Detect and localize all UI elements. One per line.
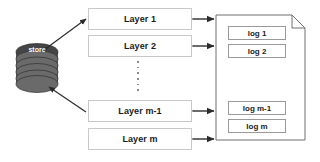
layers-ellipsis-icon (132, 61, 144, 91)
store-to-layer-m-1-arrow (49, 87, 86, 112)
diagram-canvas: store Layer 1 Layer 2 Layer m-1 Layer m … (0, 0, 320, 162)
log-label: log m-1 (243, 104, 271, 113)
layer-box-m[interactable]: Layer m (88, 128, 192, 150)
layer-box-1[interactable]: Layer 1 (88, 8, 192, 30)
log-label: log m (246, 122, 267, 131)
log-box-1[interactable]: log 1 (228, 26, 286, 40)
layer-label: Layer m (122, 134, 157, 144)
layer-label: Layer m-1 (118, 106, 161, 116)
log-box-2[interactable]: log 2 (228, 44, 286, 58)
layer-label: Layer 1 (124, 14, 156, 24)
store-to-layer-1-arrow (48, 19, 86, 47)
store-label: store (16, 46, 58, 53)
log-box-m[interactable]: log m (228, 119, 286, 133)
log-label: log 1 (248, 29, 267, 38)
log-label: log 2 (248, 47, 267, 56)
log-box-m-1[interactable]: log m-1 (228, 101, 286, 115)
layer-label: Layer 2 (124, 41, 156, 51)
layer-box-2[interactable]: Layer 2 (88, 35, 192, 57)
layer-box-m-1[interactable]: Layer m-1 (88, 100, 192, 122)
